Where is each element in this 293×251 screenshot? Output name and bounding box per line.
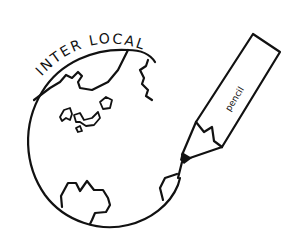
logo-illustration: INTER LOCAL	[0, 0, 293, 251]
inter-local-logo: INTER LOCAL	[0, 0, 293, 251]
pencil-label: pencil	[223, 85, 246, 113]
globe-icon	[28, 50, 180, 227]
pencil-icon: pencil	[178, 34, 280, 178]
